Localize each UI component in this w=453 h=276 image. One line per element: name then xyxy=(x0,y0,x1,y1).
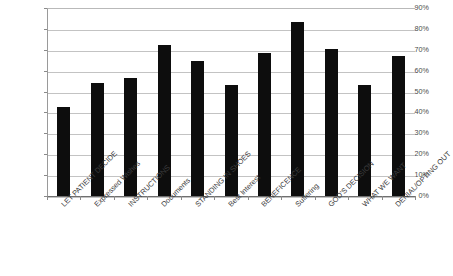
x-axis-tick-mark xyxy=(214,196,215,200)
x-axis-tick-mark xyxy=(248,196,249,200)
bar xyxy=(258,53,271,196)
x-axis-tick-mark xyxy=(382,196,383,200)
x-axis-tick-mark xyxy=(147,196,148,200)
bar xyxy=(191,61,204,196)
bar xyxy=(325,49,338,196)
x-axis-tick-mark xyxy=(47,196,48,200)
bar xyxy=(57,107,70,196)
x-axis-tick-mark xyxy=(181,196,182,200)
x-axis-tick-mark xyxy=(315,196,316,200)
x-axis-tick-mark xyxy=(80,196,81,200)
x-axis-tick-mark xyxy=(114,196,115,200)
x-axis-tick-mark xyxy=(348,196,349,200)
x-axis-tick-mark xyxy=(281,196,282,200)
x-axis-tick-mark xyxy=(415,196,416,200)
